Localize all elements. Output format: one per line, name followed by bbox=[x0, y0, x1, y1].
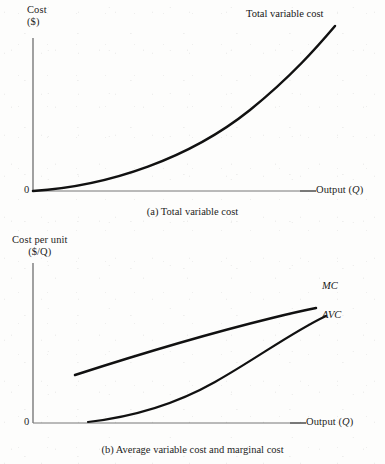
marginal-cost-label: MC bbox=[322, 280, 338, 291]
panel-total-variable-cost: Cost ($) 0 Output (Q) Total variable cos… bbox=[0, 0, 385, 230]
panel-avc-and-mc: Cost per unit ($/Q) 0 Output (Q) MC AVC … bbox=[0, 230, 385, 464]
average-variable-cost-label: AVC bbox=[322, 309, 341, 320]
panel-b-y-axis-unit: ($/Q) bbox=[12, 246, 68, 258]
panel-b-plot bbox=[0, 230, 385, 464]
cost-curves-figure: Cost ($) 0 Output (Q) Total variable cos… bbox=[0, 0, 385, 464]
panel-a-x-axis-label: Output (Q) bbox=[316, 184, 363, 196]
panel-a-x-axis-title: Output ( bbox=[316, 184, 352, 195]
average-variable-cost-curve bbox=[88, 316, 326, 422]
panel-a-y-axis-unit: ($) bbox=[27, 16, 47, 28]
panel-b-x-axis-title: Output ( bbox=[306, 416, 342, 427]
panel-b-x-axis-label: Output (Q) bbox=[306, 416, 353, 428]
panel-b-caption: (b) Average variable cost and marginal c… bbox=[0, 444, 385, 455]
total-variable-cost-label: Total variable cost bbox=[246, 8, 323, 19]
panel-a-x-axis-title-close: ) bbox=[360, 184, 364, 195]
panel-b-y-axis-label: Cost per unit ($/Q) bbox=[12, 234, 68, 258]
panel-a-caption: (a) Total variable cost bbox=[0, 206, 385, 217]
panel-a-origin-label: 0 bbox=[24, 184, 29, 195]
panel-b-x-axis-title-close: ) bbox=[350, 416, 354, 427]
panel-b-origin-label: 0 bbox=[24, 416, 29, 427]
total-variable-cost-curve bbox=[33, 26, 335, 191]
panel-a-y-axis-label: Cost ($) bbox=[27, 4, 47, 28]
panel-b-x-axis-variable: Q bbox=[342, 416, 350, 427]
panel-b-y-axis-title: Cost per unit bbox=[12, 234, 68, 245]
panel-a-x-axis-variable: Q bbox=[352, 184, 360, 195]
panel-a-y-axis-title: Cost bbox=[27, 4, 47, 15]
